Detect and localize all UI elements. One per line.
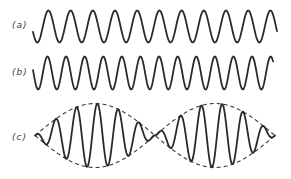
waves-canvas xyxy=(0,0,291,179)
panel-label-b: (b) xyxy=(12,67,28,77)
wave-a-sinusoid xyxy=(33,11,277,43)
panel-label-a: (a) xyxy=(12,20,28,30)
wave-b-sinusoid xyxy=(33,57,273,90)
wave-superposition-figure: (a) (b) (c) xyxy=(0,0,291,179)
wave-c-beat-pattern xyxy=(35,104,275,168)
panel-label-c: (c) xyxy=(12,132,27,142)
